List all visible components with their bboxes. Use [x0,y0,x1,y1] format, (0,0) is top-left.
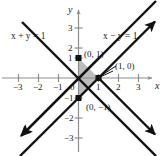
equation-label-x-plus-y: x + y = 1 [11,32,45,42]
y-tick-label--1: −1 [64,94,74,103]
y-tick-label--3: −3 [64,134,74,143]
point-label-1-0: (1, 0) [115,62,135,71]
x-tick-label--1: −1 [53,83,63,92]
x-tick-label--3: −3 [13,83,23,92]
point-marker-0-minus-1 [76,95,82,101]
point-label-0-minus-1: (0, −1) [86,103,111,112]
x-tick-label--2: −2 [33,83,43,92]
y-tick-label-2: 2 [68,44,73,53]
line-x-plus-y-arrow-upper-left [21,57,100,136]
y-tick-label-3: 3 [68,24,73,33]
x-tick-label-3: 3 [136,83,141,92]
point-marker-1-0 [96,75,102,81]
y-tick-label-1: 1 [68,54,73,63]
x-axis-label: x [155,81,159,91]
coordinate-plane-figure: x + y = 1 x − y = 1 x y −3 −2 −1 0 1 2 3… [0,0,165,156]
x-tick-label-0: 0 [70,83,75,92]
y-axis-label: y [68,5,72,15]
plot-canvas [0,0,165,156]
point-marker-0-1 [76,55,82,61]
y-tick-label--2: −2 [64,114,74,123]
x-tick-label-1: 1 [96,83,101,92]
x-tick-label-2: 2 [116,83,121,92]
point-label-0-1: (0, 1) [84,50,104,59]
equation-label-x-minus-y: x − y = 1 [103,32,137,42]
